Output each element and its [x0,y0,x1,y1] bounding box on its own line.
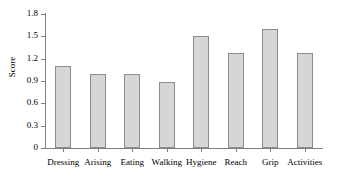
bar [228,53,244,148]
y-tick-mark [41,103,46,104]
y-axis-title: Score [7,37,17,97]
x-tick-mark [270,148,271,152]
y-tick-mark [41,126,46,127]
x-axis-line [45,148,323,149]
y-tick-label: 0.9 [27,75,38,85]
x-tick-mark [305,148,306,152]
y-tick-label: 1.8 [27,8,38,18]
x-category-label: Hygiene [186,157,217,167]
y-tick-label: 0 [34,142,39,152]
bar [297,53,313,148]
x-tick-mark [98,148,99,152]
y-tick-label: 1.5 [27,30,38,40]
y-tick-label: 0.6 [27,97,38,107]
x-category-label: Walking [152,157,182,167]
x-tick-mark [167,148,168,152]
x-category-label: Arising [84,157,111,167]
x-tick-mark [132,148,133,152]
bar-chart-figure: Score 00.30.60.91.21.51.8 DressingArisin… [0,0,340,190]
bar [159,82,175,148]
x-tick-mark [236,148,237,152]
y-tick-mark [41,14,46,15]
y-tick-mark [41,59,46,60]
bar [262,29,278,148]
y-tick-label: 1.2 [27,53,38,63]
x-category-label: Dressing [47,157,79,167]
bar [90,74,106,148]
bar [193,36,209,148]
x-category-label: Eating [121,157,145,167]
y-tick-label: 0.3 [27,120,38,130]
y-tick-mark [41,148,46,149]
x-category-label: Reach [225,157,248,167]
x-category-label: Activities [287,157,322,167]
x-tick-mark [63,148,64,152]
x-category-label: Grip [262,157,279,167]
y-tick-mark [41,36,46,37]
x-tick-mark [201,148,202,152]
y-tick-mark [41,81,46,82]
bar [124,74,140,148]
bar [55,66,71,148]
